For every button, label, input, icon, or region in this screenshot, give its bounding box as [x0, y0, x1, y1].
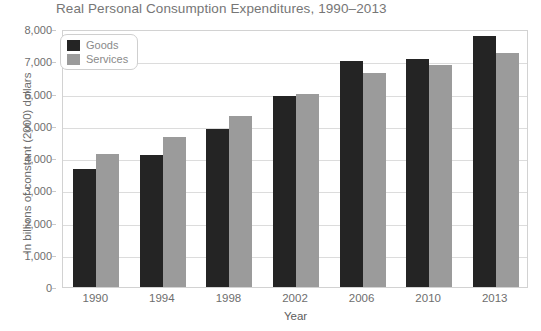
bar-goods-2006 — [340, 61, 363, 287]
y-tick-label: 4,000 — [24, 153, 52, 165]
y-tick-mark — [52, 95, 56, 96]
bar-services-1998 — [229, 116, 252, 287]
bar-goods-1990 — [73, 169, 96, 287]
y-tick-mark — [52, 127, 56, 128]
x-tick-label-2013: 2013 — [482, 292, 508, 304]
y-tick-mark — [52, 224, 56, 225]
bar-group — [140, 31, 186, 287]
x-tick-label-2010: 2010 — [415, 292, 441, 304]
bar-group — [406, 31, 452, 287]
chart-legend: GoodsServices — [60, 34, 138, 70]
y-tick-label: 8,000 — [24, 24, 52, 36]
bar-group — [340, 31, 386, 287]
y-tick-label: 3,000 — [24, 185, 52, 197]
legend-item-goods: Goods — [67, 39, 128, 51]
bar-services-2002 — [296, 94, 319, 287]
y-tick-mark — [52, 30, 56, 31]
x-tick-label-1994: 1994 — [149, 292, 175, 304]
y-tick-label: 5,000 — [24, 121, 52, 133]
y-tick-mark — [52, 256, 56, 257]
bar-goods-1998 — [206, 129, 229, 287]
x-tick-label-1998: 1998 — [216, 292, 242, 304]
chart-title: Real Personal Consumption Expenditures, … — [56, 1, 387, 16]
legend-label: Goods — [86, 39, 118, 51]
y-tick-mark — [52, 62, 56, 63]
x-tick-label-2006: 2006 — [349, 292, 375, 304]
y-tick-label: 1,000 — [24, 250, 52, 262]
bar-goods-2010 — [406, 59, 429, 287]
y-tick-mark — [52, 288, 56, 289]
bar-goods-2002 — [273, 96, 296, 287]
chart-container: Real Personal Consumption Expenditures, … — [0, 0, 541, 331]
x-axis-title: Year — [62, 310, 529, 322]
x-tick-label-2002: 2002 — [282, 292, 308, 304]
x-axis-ticks: 1990199419982002200620102013 — [62, 290, 528, 308]
services-swatch-icon — [67, 54, 80, 65]
legend-item-services: Services — [67, 53, 128, 65]
y-tick-label: 2,000 — [24, 218, 52, 230]
y-tick-label: 6,000 — [24, 89, 52, 101]
bar-services-2006 — [363, 73, 386, 287]
y-axis-ticks: 01,0002,0003,0004,0005,0006,0007,0008,00… — [0, 30, 56, 288]
y-tick-mark — [52, 159, 56, 160]
bar-group — [206, 31, 252, 287]
bar-services-2010 — [429, 65, 452, 287]
legend-label: Services — [86, 53, 128, 65]
bar-services-2013 — [496, 53, 519, 287]
bar-group — [273, 31, 319, 287]
bar-services-1994 — [163, 137, 186, 287]
bar-group — [473, 31, 519, 287]
y-tick-mark — [52, 191, 56, 192]
goods-swatch-icon — [67, 40, 80, 51]
x-tick-label-1990: 1990 — [82, 292, 108, 304]
bar-goods-1994 — [140, 155, 163, 287]
y-tick-label: 7,000 — [24, 56, 52, 68]
bar-services-1990 — [96, 154, 119, 287]
bar-goods-2013 — [473, 36, 496, 287]
